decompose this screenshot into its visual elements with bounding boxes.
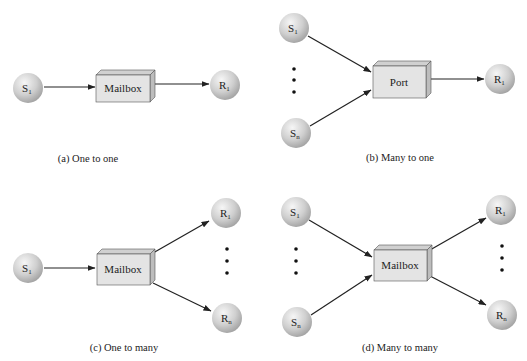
panel-many-to-one: S1 Sn Port R1 (b) Many to one (279, 13, 515, 164)
mailbox-box: Mailbox (96, 70, 155, 102)
sender-node-s1: S1 (13, 73, 43, 103)
port-box: Port (373, 61, 431, 98)
caption-d: (d) Many to many (362, 342, 439, 354)
receiver-node-rn: Rn (212, 303, 242, 333)
mailbox-label: Mailbox (381, 259, 419, 271)
arrow-sn-to-mailbox (311, 275, 372, 315)
caption-c: (c) One to many (90, 342, 159, 354)
arrow-s1-to-port (308, 36, 371, 72)
sender-node-sn: Sn (282, 307, 312, 337)
arrow-mailbox-to-r1 (430, 218, 486, 250)
mailbox-box: Mailbox (374, 245, 432, 281)
ellipsis-dots (225, 247, 229, 275)
panel-one-to-many: S1 Mailbox R1 Rn (c) One to many (13, 198, 242, 354)
ellipsis-dots (292, 67, 296, 94)
ellipsis-dots (294, 247, 298, 275)
port-label: Port (390, 76, 408, 88)
sender-node-sn: Sn (281, 118, 311, 148)
sender-node-s1: S1 (279, 13, 309, 43)
ellipsis-dots (500, 244, 504, 272)
caption-b: (b) Many to one (366, 152, 434, 164)
mailbox-label: Mailbox (104, 82, 142, 94)
arrow-mailbox-to-r1 (153, 221, 209, 253)
arrow-mailbox-to-rn (430, 276, 486, 305)
arrow-mailbox-to-rn (153, 283, 211, 311)
communication-diagram: S1 Mailbox R1 (a) One to one S1 (0, 0, 527, 361)
receiver-node-r1: R1 (485, 64, 515, 94)
sender-node-s1: S1 (13, 253, 43, 283)
receiver-node-r1: R1 (211, 198, 241, 228)
panel-one-to-one: S1 Mailbox R1 (a) One to one (13, 70, 240, 165)
receiver-node-r1: R1 (486, 195, 516, 225)
receiver-node-r1: R1 (210, 70, 240, 100)
mailbox-box: Mailbox (97, 249, 155, 285)
receiver-node-rn: Rn (487, 300, 517, 330)
caption-a: (a) One to one (58, 153, 119, 165)
arrow-sn-to-port (310, 90, 371, 126)
sender-node-s1: S1 (281, 197, 311, 227)
mailbox-label: Mailbox (104, 263, 142, 275)
panel-many-to-many: S1 Sn Mailbox R1 Rn (281, 195, 517, 354)
arrow-s1-to-mailbox (309, 220, 372, 257)
